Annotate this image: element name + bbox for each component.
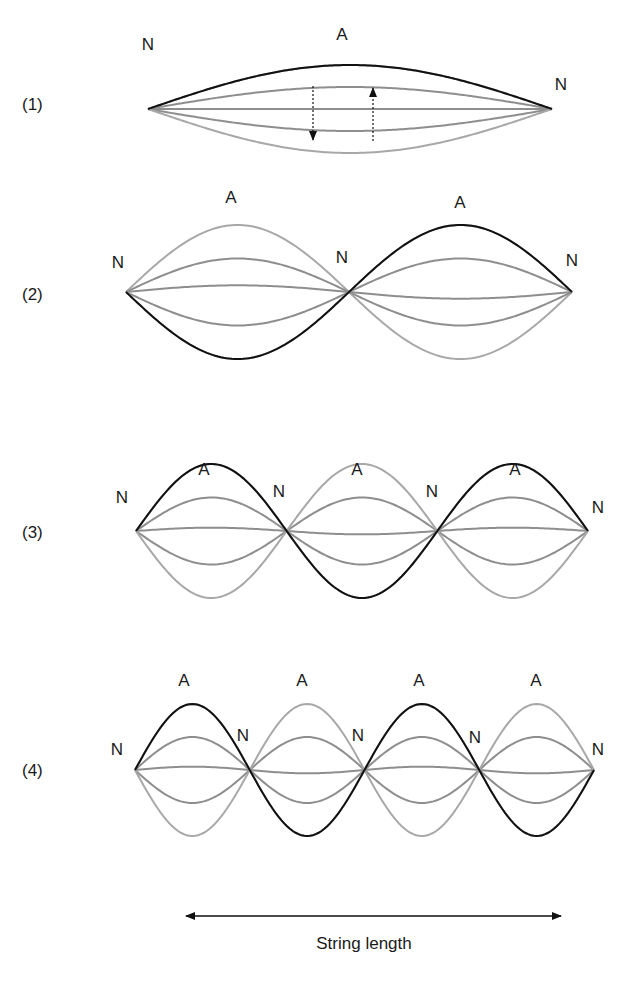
panel-2-waves: [126, 225, 572, 359]
string-length-label: String length: [316, 934, 411, 953]
antinode-label-3-1: A: [351, 460, 363, 479]
wave-curve-3-2: [136, 528, 588, 535]
panel-1-waves: [148, 65, 552, 153]
node-label-3-0: N: [116, 488, 128, 507]
antinode-label-4-1: A: [296, 671, 308, 690]
antinode-label-4-0: A: [178, 671, 190, 690]
node-antinode-labels: NNANNNAANNNNAAANNNNNAAAA: [111, 25, 604, 759]
panel-3-waves: [136, 464, 588, 598]
antinode-label-3-2: A: [509, 460, 521, 479]
node-label-4-4: N: [592, 740, 604, 759]
antinode-label-3-0: A: [198, 460, 210, 479]
antinode-label-4-2: A: [413, 671, 425, 690]
node-label-4-0: N: [111, 740, 123, 759]
node-label-1-0: N: [142, 35, 154, 54]
wave-curve-2-highlight: [126, 225, 572, 359]
antinode-label-2-0: A: [225, 188, 237, 207]
node-label-2-1: N: [336, 248, 348, 267]
antinode-label-4-3: A: [530, 671, 542, 690]
node-label-2-2: N: [566, 251, 578, 270]
wave-curves: [126, 65, 594, 836]
wave-curve-3-4: [136, 464, 588, 598]
wave-curve-4-highlight: [135, 704, 594, 836]
panel-label-3: (3): [22, 523, 43, 542]
panel-label-1: (1): [22, 95, 43, 114]
panel-4-waves: [135, 704, 594, 836]
standing-wave-diagram: (1) (2) (3) (4) NNANNNAANNNNAAANNNNNAAAA…: [0, 0, 636, 982]
panel-label-4: (4): [22, 761, 43, 780]
wave-curve-3-highlight: [136, 464, 588, 598]
node-label-3-3: N: [592, 498, 604, 517]
wave-curve-3-3: [136, 498, 588, 565]
node-label-4-1: N: [237, 726, 249, 745]
wave-curve-1-3: [148, 109, 552, 131]
node-label-4-3: N: [469, 728, 481, 747]
node-label-1-1: N: [555, 75, 567, 94]
node-label-3-2: N: [426, 482, 438, 501]
wave-curve-3-0: [136, 464, 588, 598]
node-label-4-2: N: [352, 726, 364, 745]
antinode-label-1-0: A: [336, 25, 348, 44]
node-label-2-0: N: [112, 253, 124, 272]
wave-curve-3-1: [136, 498, 588, 565]
wave-curve-1-1: [148, 87, 552, 109]
antinode-label-2-1: A: [454, 193, 466, 212]
panel-label-2: (2): [22, 285, 43, 304]
node-label-3-1: N: [273, 482, 285, 501]
